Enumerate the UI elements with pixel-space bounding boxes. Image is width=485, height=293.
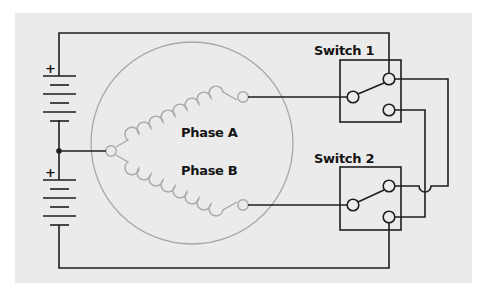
battery-1-plus: + [45,61,56,76]
switch-1-common-terminal [347,91,359,103]
switch-2-top-terminal [383,180,395,192]
phase-a-label: Phase A [181,125,238,140]
motor-wiring-diagram: + + Switch 1 Switch 2 Phase A Phase B [0,0,485,293]
battery-2-plus: + [45,165,56,180]
switch-1-label: Switch 1 [314,43,374,58]
phase-b-node [238,200,248,210]
junction-dot [56,148,62,154]
switch-2-common-terminal [347,199,359,211]
motor-common-node [106,146,116,156]
diagram-panel [15,13,472,283]
phase-a-node [238,92,248,102]
phase-b-label: Phase B [181,163,237,178]
switch-2-bottom-terminal [383,211,395,223]
switch-1-bottom-terminal [383,104,395,116]
switch-1-top-terminal [383,73,395,85]
switch-2-label: Switch 2 [314,151,374,166]
